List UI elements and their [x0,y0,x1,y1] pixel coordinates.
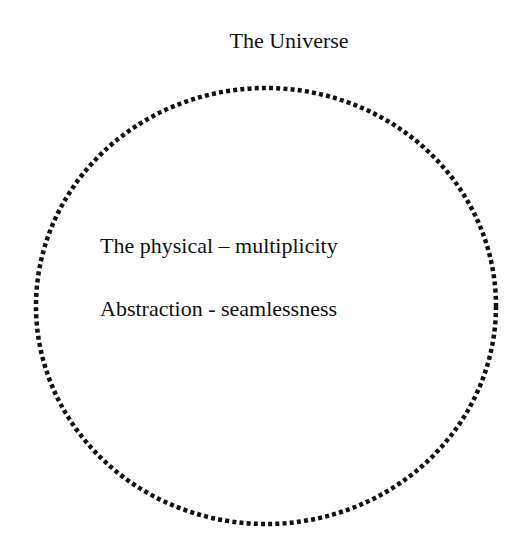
abstraction-seamlessness-label: Abstraction - seamlessness [100,296,337,322]
physical-multiplicity-label: The physical – multiplicity [100,233,338,259]
universe-boundary-ellipse [0,0,520,540]
